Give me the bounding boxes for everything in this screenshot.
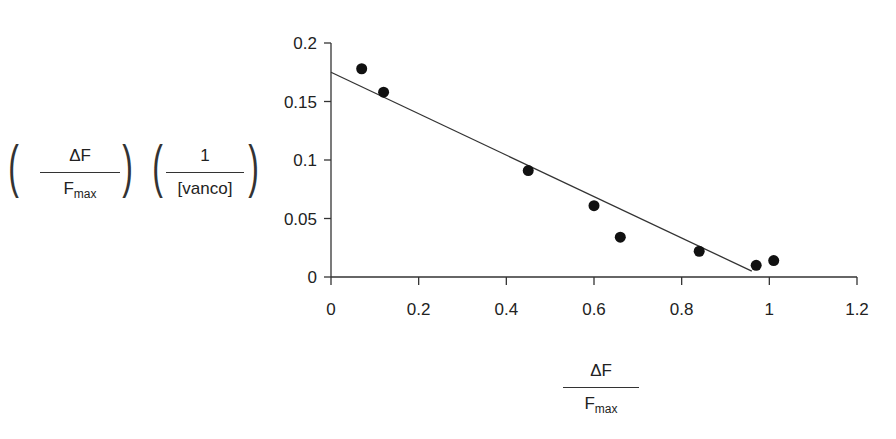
x-tick-label: 0.4 xyxy=(495,300,519,319)
x-tick-label: 1.2 xyxy=(845,300,869,319)
fit-line xyxy=(331,72,752,271)
y-tick-label: 0 xyxy=(308,268,317,287)
y-tick-label: 0.2 xyxy=(293,34,317,53)
data-point xyxy=(589,200,600,211)
scatter-plot: 00.20.40.60.811.200.050.10.150.2 xyxy=(0,0,896,439)
y-tick-label: 0.05 xyxy=(284,210,317,229)
y-tick-label: 0.15 xyxy=(284,93,317,112)
data-point xyxy=(768,255,779,266)
x-tick-label: 0.6 xyxy=(582,300,606,319)
x-tick-label: 0 xyxy=(326,300,335,319)
data-point xyxy=(523,165,534,176)
x-tick-label: 0.8 xyxy=(670,300,694,319)
data-point xyxy=(378,87,389,98)
y-tick-label: 0.1 xyxy=(293,151,317,170)
x-tick-label: 0.2 xyxy=(407,300,431,319)
data-point xyxy=(751,260,762,271)
data-point xyxy=(694,246,705,257)
data-point xyxy=(356,63,367,74)
x-tick-label: 1 xyxy=(765,300,774,319)
data-point xyxy=(615,232,626,243)
